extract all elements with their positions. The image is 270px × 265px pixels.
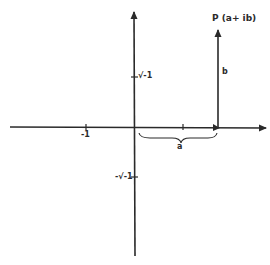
base-arrowhead xyxy=(213,124,220,131)
imaginary-axis xyxy=(134,12,135,256)
real-axis xyxy=(10,127,266,128)
x-tick-label-minus-one: -1 xyxy=(81,131,90,139)
a-label: a xyxy=(177,143,182,151)
complex-plane-diagram: P (a+ ib) b a -1 1 √-1 -√-1 xyxy=(0,0,270,265)
point-p-label: P (a+ ib) xyxy=(212,14,256,23)
b-label: b xyxy=(222,68,228,76)
diagram-canvas xyxy=(0,0,270,265)
y-tick-label-sqrt-minus-one: √-1 xyxy=(138,72,152,80)
y-tick-label-neg-sqrt-minus-one: -√-1 xyxy=(115,173,133,181)
